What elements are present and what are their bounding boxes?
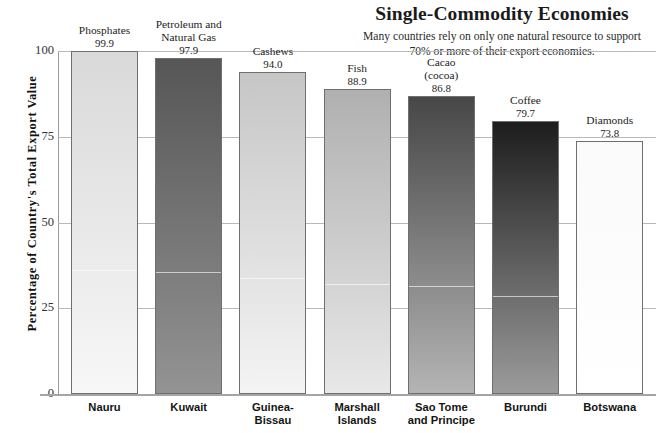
- bar-burundi[interactable]: [492, 121, 559, 394]
- bar-value-label: Diamonds73.8: [560, 114, 659, 139]
- commodity-name: Natural Gas: [139, 31, 238, 44]
- bar-guinea-bissau[interactable]: [239, 72, 306, 394]
- bar-sao-tome-and-principe[interactable]: [408, 96, 475, 394]
- country-label-line: Kuwait: [141, 401, 236, 414]
- commodity-name: Diamonds: [560, 114, 659, 127]
- y-tick-label-75: 75: [20, 129, 54, 144]
- y-tick-label-100: 100: [20, 43, 54, 58]
- bar-sheen-line: [493, 296, 558, 297]
- bar-nauru[interactable]: [71, 51, 138, 394]
- bar-value-label: Cacao(cocoa)86.8: [392, 56, 491, 94]
- chart-title: Single-Commodity Economies: [348, 4, 656, 24]
- commodity-value: 73.8: [560, 127, 659, 139]
- bar-botswana[interactable]: [576, 141, 643, 394]
- x-axis-country-label: Sao Tomeand Principe: [394, 401, 489, 427]
- commodity-name: (cocoa): [392, 69, 491, 82]
- commodity-name: Cashews: [223, 45, 322, 58]
- x-axis-country-label: Burundi: [478, 401, 573, 414]
- bar-sheen-line: [409, 286, 474, 287]
- y-tick-label-50: 50: [20, 215, 54, 230]
- bar-sheen-line: [72, 270, 137, 271]
- commodity-name: Cacao: [392, 56, 491, 69]
- chart-container: Single-Commodity Economies Many countrie…: [0, 0, 660, 433]
- country-label-line: Nauru: [57, 401, 152, 414]
- x-axis-country-label: MarshallIslands: [310, 401, 405, 427]
- country-label-line: Burundi: [478, 401, 573, 414]
- country-label-line: Bissau: [225, 414, 320, 427]
- x-axis-line: [40, 394, 656, 396]
- commodity-name: Petroleum and: [139, 18, 238, 31]
- country-label-line: Sao Tome: [394, 401, 489, 414]
- commodity-name: Coffee: [476, 94, 575, 107]
- bar-marshall-islands[interactable]: [324, 89, 391, 394]
- bar-sheen-line: [240, 278, 305, 279]
- x-axis-country-label: Botswana: [562, 401, 657, 414]
- bar-sheen-line: [325, 284, 390, 285]
- bar-sheen-line: [156, 272, 221, 273]
- x-axis-country-label: Kuwait: [141, 401, 236, 414]
- bar-kuwait[interactable]: [155, 58, 222, 394]
- country-label-line: Marshall: [310, 401, 405, 414]
- country-label-line: Islands: [310, 414, 405, 427]
- y-axis-tick-labels: 0255075100: [14, 0, 54, 433]
- plot-area: Phosphates99.9NauruPetroleum andNatural …: [58, 46, 656, 395]
- country-label-line: Guinea-: [225, 401, 320, 414]
- country-label-line: and Principe: [394, 414, 489, 427]
- y-tick-label-25: 25: [20, 300, 54, 315]
- x-axis-country-label: Nauru: [57, 401, 152, 414]
- x-axis-country-label: Guinea-Bissau: [225, 401, 320, 427]
- country-label-line: Botswana: [562, 401, 657, 414]
- bar-sheen-line: [577, 303, 642, 304]
